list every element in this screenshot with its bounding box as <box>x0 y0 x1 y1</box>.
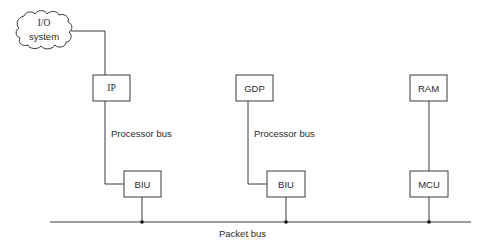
ip-node: IP <box>93 75 130 101</box>
biu-left-label: BIU <box>135 179 151 190</box>
biu-middle-label: BIU <box>278 179 294 190</box>
gdp-node: GDP <box>236 75 273 101</box>
junction-dot-left <box>140 220 144 224</box>
biu-middle-node: BIU <box>267 171 305 197</box>
mcu-node: MCU <box>410 171 448 197</box>
io-system-label-line2: system <box>29 31 59 42</box>
junction-dot-middle <box>284 220 288 224</box>
mcu-label: MCU <box>418 179 440 190</box>
io-system-cloud: I/O system <box>16 11 72 49</box>
io-system-label-line1: I/O <box>38 18 51 28</box>
io-to-ip-connector <box>71 31 105 75</box>
biu-left-node: BIU <box>124 171 161 197</box>
ip-label: IP <box>107 83 115 93</box>
processor-bus-left-label: Processor bus <box>111 128 172 139</box>
packet-bus-label: Packet bus <box>219 228 266 239</box>
ram-label: RAM <box>418 83 439 94</box>
processor-bus-middle-label: Processor bus <box>254 128 315 139</box>
system-architecture-diagram: I/O system IP GDP RAM BIU BIU <box>0 0 489 245</box>
processor-bus-left-line <box>105 101 124 184</box>
junction-dot-right <box>427 220 431 224</box>
gdp-label: GDP <box>244 83 265 94</box>
ram-node: RAM <box>410 75 447 101</box>
processor-bus-middle-line <box>248 101 267 184</box>
